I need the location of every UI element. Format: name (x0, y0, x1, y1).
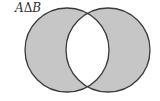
venn-diagram (0, 0, 160, 101)
